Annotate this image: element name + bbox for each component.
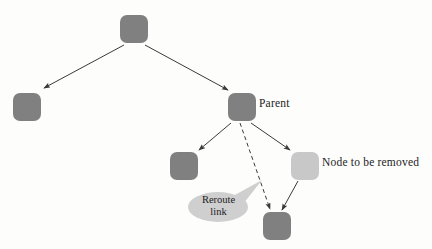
node-to-be-removed[interactable]	[291, 152, 319, 180]
node-left-child[interactable]	[13, 93, 41, 121]
callout-label: Reroute link	[189, 194, 248, 218]
callout-label-line1: Reroute	[189, 194, 248, 206]
node-root[interactable]	[120, 15, 148, 43]
node-middle-child[interactable]	[170, 152, 198, 180]
edge-root-to-left	[44, 45, 124, 88]
node-bottom-child[interactable]	[263, 212, 291, 240]
label-node-to-be-removed: Node to be removed	[322, 156, 419, 168]
edge-parent-to-removed	[251, 123, 290, 150]
edge-removed-to-bottom	[282, 181, 298, 210]
callout-label-line2: link	[189, 206, 248, 218]
diagram-canvas: Parent Node to be removed Reroute link	[0, 0, 432, 249]
label-parent: Parent	[259, 97, 290, 109]
node-parent[interactable]	[228, 93, 256, 121]
edge-parent-to-middle	[199, 123, 231, 150]
edge-root-to-parent	[145, 45, 228, 90]
